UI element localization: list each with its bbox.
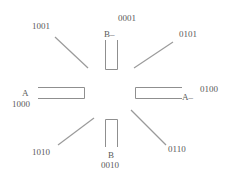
bottom-left-code-label: 1010 <box>32 147 50 157</box>
bottom-left-diagonal <box>58 118 94 145</box>
left-code-label: 1000 <box>12 99 30 109</box>
top-left-diagonal <box>55 37 88 68</box>
top-letter-label: B– <box>104 29 115 39</box>
top-bar-shape <box>106 40 118 70</box>
right-bar-shape <box>136 88 183 99</box>
right-code-label: 0100 <box>200 84 218 94</box>
bottom-bar-shape <box>106 120 118 148</box>
left-bar-shape <box>38 88 85 99</box>
bottom-right-diagonal <box>131 110 166 145</box>
top-right-code-label: 0101 <box>179 29 197 39</box>
right-letter-label: A– <box>182 92 193 102</box>
bottom-letter-label: B <box>108 150 114 160</box>
direction-code-diagram: 0001 B– B 0010 A 1000 A– 0100 1001 0101 … <box>0 0 230 179</box>
bottom-code-label: 0010 <box>101 160 119 170</box>
bottom-right-code-label: 0110 <box>168 144 186 154</box>
top-code-label: 0001 <box>118 13 136 23</box>
top-right-diagonal <box>134 42 173 68</box>
left-letter-label: A <box>22 88 29 98</box>
top-left-code-label: 1001 <box>32 21 50 31</box>
